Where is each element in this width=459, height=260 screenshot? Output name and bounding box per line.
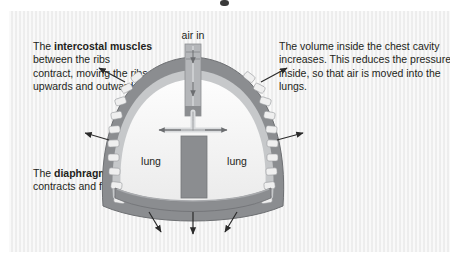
mediastinum-column — [181, 136, 207, 198]
label-air-in: air in — [182, 30, 205, 41]
page-ink-speck — [220, 0, 229, 6]
label-lung-left: lung — [141, 155, 161, 167]
annotation-intercostal-lead: The — [33, 40, 54, 52]
arrow-rib-lower-left — [85, 133, 109, 140]
label-lung-right: lung — [227, 155, 247, 167]
annotation-diaphragm-lead: The — [33, 167, 54, 179]
chest-cavity-diagram: air in lung lung — [85, 30, 325, 252]
diagram-panel: The intercostal muscles between the ribs… — [9, 11, 450, 252]
trachea — [185, 44, 201, 116]
arrow-rib-upper-left — [99, 68, 125, 82]
arrow-rib-upper-right — [261, 68, 287, 82]
arrow-rib-lower-right — [277, 133, 303, 140]
